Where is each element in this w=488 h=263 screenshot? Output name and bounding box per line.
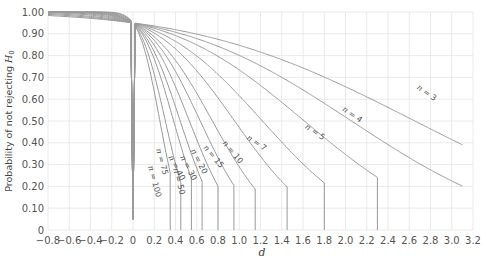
x-tick-label: −0.2 (100, 235, 124, 246)
x-tick-label: 2.4 (380, 235, 396, 246)
curve-label-n-3: n = 3 (415, 83, 438, 103)
x-tick-label: 2.6 (401, 235, 417, 246)
x-axis-label: d (258, 246, 265, 259)
y-tick-label: 0.30 (22, 159, 44, 170)
y-tick-label: 0.50 (22, 116, 44, 127)
x-tick-label: 0.2 (146, 235, 162, 246)
oc-curve-chart: n = 3n = 4n = 5n = 7n = 10n = 15n = 20n … (0, 0, 488, 263)
y-tick-label: 0.20 (22, 181, 44, 192)
x-tick-label: 0.6 (189, 235, 205, 246)
curve-label-n-5: n = 5 (303, 122, 326, 142)
y-tick-label: 0.70 (22, 72, 44, 83)
x-tick-label: 2.8 (423, 235, 439, 246)
x-tick-label: 1.8 (316, 235, 332, 246)
y-tick-label: 0.60 (22, 94, 44, 105)
x-tick-label: 2.0 (338, 235, 354, 246)
x-tick-label: 0.8 (210, 235, 226, 246)
y-axis-label: Probability of not rejecting H0 (3, 50, 16, 191)
x-tick-label: 2.2 (359, 235, 375, 246)
grid-lines (48, 12, 473, 230)
x-tick-label: 1.2 (253, 235, 269, 246)
y-tick-label: 0.10 (22, 203, 44, 214)
x-tick-label: 3.2 (465, 235, 481, 246)
x-tick-label: 1.4 (274, 235, 290, 246)
x-tick-label: 1.0 (231, 235, 247, 246)
y-tick-label: 0 (38, 225, 44, 236)
y-tick-label: 1.00 (22, 7, 44, 18)
y-tick-label: 0.90 (22, 28, 44, 39)
y-tick-label: 0.80 (22, 50, 44, 61)
x-tick-label: 0 (130, 235, 136, 246)
y-tick-label: 0.40 (22, 137, 44, 148)
x-tick-label: 0.4 (168, 235, 184, 246)
y-axis-ticks: 00.100.200.300.400.500.600.700.800.901.0… (22, 7, 44, 236)
x-tick-label: 1.6 (295, 235, 311, 246)
x-tick-label: 3.0 (444, 235, 460, 246)
x-axis-ticks: −0.8−0.6−0.4−0.200.20.40.60.81.01.21.41.… (36, 235, 481, 246)
